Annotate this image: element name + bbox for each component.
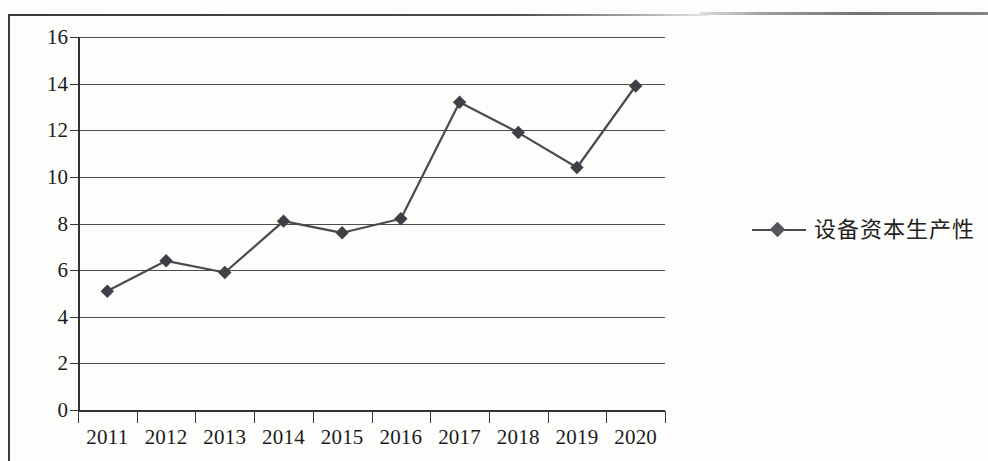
series-line [107, 86, 635, 291]
data-point-marker [335, 226, 348, 239]
line-chart: 0246810121416 20112012201320142015201620… [0, 0, 988, 461]
chart-legend: 设备资本生产性 [752, 219, 975, 241]
data-point-marker [394, 212, 407, 225]
legend-marker-icon [752, 220, 806, 240]
data-point-marker [453, 96, 466, 109]
legend-label: 设备资本生产性 [814, 219, 975, 241]
data-point-marker [159, 254, 172, 267]
data-point-marker [512, 126, 525, 139]
data-point-marker [101, 284, 114, 297]
scanned-page: 0246810121416 20112012201320142015201620… [0, 0, 988, 461]
